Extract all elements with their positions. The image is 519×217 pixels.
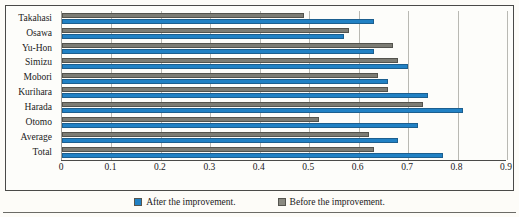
page-horizontal-rule	[3, 212, 516, 213]
y-axis-category-labels: TakahasiOsawaYu-HonSimizuMoboriKuriharaH…	[6, 11, 56, 160]
bar-group	[62, 130, 506, 145]
x-axis-line	[61, 160, 506, 161]
bar-rows	[62, 11, 506, 160]
x-tick-label: 0.7	[401, 162, 413, 172]
legend-swatch-after-icon	[134, 198, 142, 206]
bar-after-improvement	[62, 108, 463, 113]
legend-label: Before the improvement.	[290, 197, 385, 207]
bar-after-improvement	[62, 153, 443, 158]
y-axis-label: Osawa	[6, 26, 56, 41]
bar-after-improvement	[62, 49, 374, 54]
bar-group	[62, 71, 506, 86]
bar-after-improvement	[62, 138, 398, 143]
bar-group	[62, 41, 506, 56]
bar-before-improvement	[62, 147, 374, 152]
legend-item[interactable]: After the improvement.	[134, 197, 235, 207]
y-axis-label: Total	[6, 145, 56, 160]
gridline	[507, 11, 508, 160]
y-axis-label: Kurihara	[6, 86, 56, 101]
bar-group	[62, 145, 506, 160]
y-axis-label: Mobori	[6, 71, 56, 86]
bar-after-improvement	[62, 79, 388, 84]
bar-after-improvement	[62, 123, 418, 128]
x-tick-label: 0	[59, 162, 64, 172]
bar-before-improvement	[62, 43, 393, 48]
x-tick-label: 0.3	[203, 162, 215, 172]
bar-before-improvement	[62, 117, 319, 122]
x-axis-tick-labels: 00.10.20.30.40.50.60.70.80.9	[6, 162, 515, 180]
legend-swatch-before-icon	[278, 198, 286, 206]
y-axis-label: Average	[6, 130, 56, 145]
x-tick-label: 0.6	[352, 162, 364, 172]
bar-before-improvement	[62, 132, 369, 137]
x-tick-label: 0.2	[154, 162, 166, 172]
x-tick-label: 0.9	[500, 162, 512, 172]
y-axis-label: Simizu	[6, 56, 56, 71]
plot-area	[61, 11, 506, 160]
bar-before-improvement	[62, 73, 378, 78]
chart-inner-wrapper: TakahasiOsawaYu-HonSimizuMoboriKuriharaH…	[6, 6, 513, 190]
bar-group	[62, 86, 506, 101]
x-tick-label: 0.5	[302, 162, 314, 172]
bar-after-improvement	[62, 93, 428, 98]
y-axis-label: Otomo	[6, 115, 56, 130]
bar-group	[62, 26, 506, 41]
x-tick-label: 0.1	[105, 162, 117, 172]
x-tick-label: 0.8	[451, 162, 463, 172]
bar-before-improvement	[62, 87, 388, 92]
y-axis-label: Yu-Hon	[6, 41, 56, 56]
bar-after-improvement	[62, 34, 344, 39]
chart-plot-frame: TakahasiOsawaYu-HonSimizuMoboriKuriharaH…	[5, 5, 514, 191]
bar-group	[62, 115, 506, 130]
bar-group	[62, 11, 506, 26]
horizontal-bar-chart: TakahasiOsawaYu-HonSimizuMoboriKuriharaH…	[0, 0, 519, 217]
y-axis-label: Takahasi	[6, 11, 56, 26]
bar-before-improvement	[62, 58, 398, 63]
chart-legend: After the improvement.Before the improve…	[5, 193, 514, 211]
legend-label: After the improvement.	[146, 197, 235, 207]
bar-before-improvement	[62, 13, 304, 18]
bar-after-improvement	[62, 64, 408, 69]
bar-before-improvement	[62, 102, 423, 107]
legend-item[interactable]: Before the improvement.	[278, 197, 385, 207]
bar-group	[62, 56, 506, 71]
y-axis-label: Harada	[6, 100, 56, 115]
bar-before-improvement	[62, 28, 349, 33]
bar-group	[62, 100, 506, 115]
bar-after-improvement	[62, 19, 374, 24]
x-tick-label: 0.4	[253, 162, 265, 172]
